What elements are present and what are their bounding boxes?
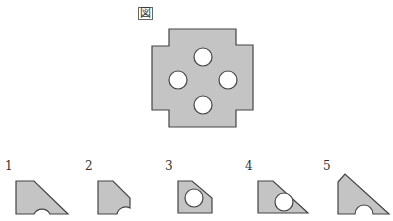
option-5-shape[interactable] <box>338 174 389 214</box>
hole-bottom <box>194 96 212 114</box>
option-3-label: 3 <box>165 160 173 172</box>
hole-top <box>194 48 212 66</box>
puzzle-canvas <box>0 0 393 221</box>
main-figure <box>152 29 253 127</box>
option-4-shape[interactable] <box>258 181 308 213</box>
hole-left <box>169 71 187 89</box>
option-1-label: 1 <box>5 160 13 172</box>
hole-right <box>219 71 237 89</box>
option-1-shape[interactable] <box>16 181 68 214</box>
option-4-label: 4 <box>245 160 253 172</box>
option-3-shape[interactable] <box>178 181 212 213</box>
option-5-label: 5 <box>323 160 331 172</box>
option-2-shape[interactable] <box>98 181 130 214</box>
option-2-label: 2 <box>85 160 93 172</box>
